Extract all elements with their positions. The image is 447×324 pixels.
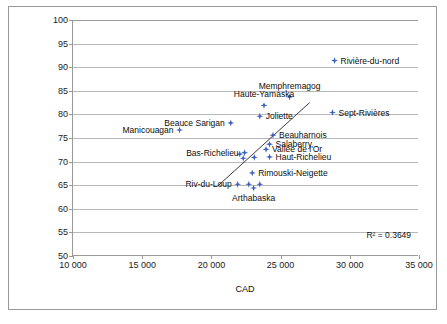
y-tick-label: 100 [53,16,68,25]
y-tick-label: 75 [58,134,68,143]
data-point-label: Joliette [266,112,293,121]
y-tick-label: 90 [58,63,68,72]
y-tick-label: 60 [58,204,68,213]
data-point-label: Rimouski-Neigette [258,168,327,177]
x-tick-label: 15 000 [128,261,156,270]
x-tick-label: 25 000 [267,261,295,270]
plot-area: 50556065707580859095100 10 00015 00020 0… [72,20,418,256]
data-point-label: Manicouagan [123,125,174,134]
chart-figure: % d'entreprises manufacturières et d'ent… [8,6,437,310]
x-tick-mark [419,255,420,259]
data-point-label: Bas-Richelieu [186,148,238,157]
y-tick-label: 80 [58,110,68,119]
r-squared-annotation: R² = 0.3649 [366,231,411,240]
data-point-label: Riv-du-Loup [185,180,231,189]
y-tick-label: 55 [58,228,68,237]
y-tick-label: 85 [58,86,68,95]
y-tick-label: 70 [58,157,68,166]
data-point-label: Arthabaska [232,194,275,203]
x-tick-label: 20 000 [198,261,226,270]
y-tick-label: 65 [58,181,68,190]
x-tick-label: 10 000 [59,261,87,270]
data-point-label: Sept-Rivières [339,108,390,117]
x-tick-label: 35 000 [405,261,433,270]
x-axis-title: CAD [72,284,418,294]
x-tick-label: 30 000 [336,261,364,270]
data-point-label: Rivière-du-nord [341,56,400,65]
data-point-label: Haute-Yamaska [234,90,294,99]
data-point-label: Haut-Richelieu [276,152,332,161]
y-tick-label: 95 [58,39,68,48]
